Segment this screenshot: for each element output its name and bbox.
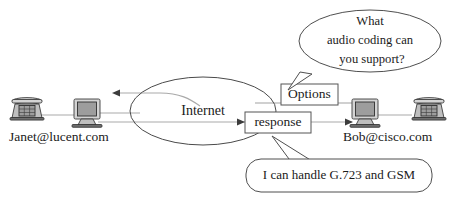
answer-line-1: I can handle G.723 and GSM	[263, 167, 416, 182]
right-phone-foot	[412, 118, 446, 121]
right-phone-keypad	[421, 106, 437, 117]
right-computer-base	[350, 125, 380, 128]
left-phone-foot	[10, 118, 44, 121]
telephone-icon	[10, 98, 44, 121]
left-computer-base	[72, 125, 102, 128]
cloud-label: Internet	[181, 103, 225, 118]
question-line-1: What	[356, 14, 384, 28]
network-diagram: Internet Options response What audio cod…	[0, 0, 469, 200]
right-endpoint-label: Bob@cisco.com	[343, 129, 433, 144]
left-endpoint-label: Janet@lucent.com	[9, 129, 109, 144]
arrow-into-response-icon	[237, 119, 245, 126]
left-phone-handset-bar	[12, 100, 42, 104]
internet-cloud: Internet	[130, 77, 276, 145]
question-bubble[interactable]: What audio coding can you support?	[288, 10, 441, 90]
computer-icon	[72, 99, 102, 127]
question-line-3: you support?	[339, 52, 405, 66]
response-label: response	[254, 114, 301, 129]
arrow-to-left-icon	[112, 90, 120, 97]
answer-bubble[interactable]: I can handle G.723 and GSM	[246, 136, 432, 192]
right-computer-screen	[356, 102, 375, 116]
left-computer-screen	[78, 102, 97, 116]
question-line-2: audio coding can	[327, 33, 414, 47]
options-label: Options	[288, 86, 331, 101]
left-phone-keypad	[19, 106, 35, 117]
right-phone-handset-bar	[414, 100, 444, 104]
telephone-icon	[412, 98, 446, 121]
computer-icon	[350, 99, 380, 127]
response-message[interactable]: response	[245, 112, 311, 133]
diagram-canvas: Internet Options response What audio cod…	[0, 0, 469, 200]
